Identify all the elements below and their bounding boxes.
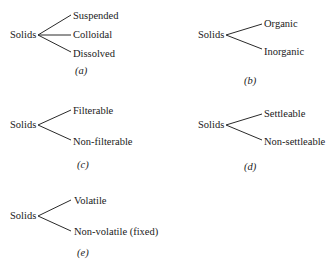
caption: (d) [244, 161, 257, 173]
root-label: Solids [10, 210, 36, 221]
diagram-c: Solids Filterable Non-filterable (c) [10, 105, 133, 171]
branch-line [38, 125, 71, 140]
child-label-inorganic: Inorganic [264, 46, 304, 57]
root-label: Solids [198, 119, 224, 130]
child-label-volatile: Volatile [74, 195, 107, 206]
branch-line [226, 24, 262, 35]
branch-line [38, 216, 71, 231]
caption: (e) [77, 247, 89, 259]
child-label-filterable: Filterable [73, 105, 114, 116]
diagram-e: Solids Volatile Non-volatile (fixed) (e) [10, 195, 159, 259]
root-label: Solids [10, 29, 36, 40]
caption: (c) [77, 159, 89, 171]
child-label-suspended: Suspended [73, 10, 119, 21]
solids-classification-figure: Solids Suspended Colloidal Dissolved (a)… [0, 0, 332, 267]
caption: (a) [75, 65, 88, 77]
child-label-non-volatile-fixed: Non-volatile (fixed) [74, 226, 159, 238]
child-label-dissolved: Dissolved [73, 48, 116, 59]
caption: (b) [244, 75, 257, 87]
child-label-settleable: Settleable [264, 108, 306, 119]
root-label: Solids [198, 29, 224, 40]
branch-line [226, 35, 262, 49]
branch-line [226, 114, 262, 125]
branch-line [38, 110, 71, 125]
diagram-a: Solids Suspended Colloidal Dissolved (a) [10, 10, 119, 77]
branch-line [38, 15, 71, 35]
child-label-colloidal: Colloidal [73, 29, 112, 40]
branch-line [226, 125, 262, 140]
branch-line [38, 200, 71, 216]
child-label-non-settleable: Non-settleable [264, 136, 326, 147]
diagram-d: Solids Settleable Non-settleable (d) [198, 108, 326, 173]
child-label-non-filterable: Non-filterable [73, 136, 133, 147]
root-label: Solids [10, 119, 36, 130]
diagram-b: Solids Organic Inorganic (b) [198, 18, 304, 87]
child-label-organic: Organic [264, 18, 298, 29]
branch-line [38, 35, 71, 52]
